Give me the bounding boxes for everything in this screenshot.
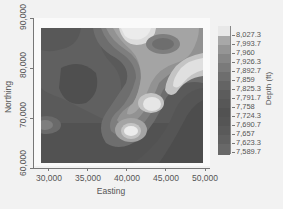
x-tick: [87, 168, 88, 171]
colorbar-label: 7,690.7: [232, 121, 261, 129]
x-tick-label: 30,000: [36, 173, 62, 183]
colorbar-label: 7,623.3: [232, 139, 261, 147]
y-axis-title: Northing: [3, 81, 13, 113]
colorbar-band: [218, 26, 230, 36]
colorbar-label: 7,892.7: [232, 67, 261, 75]
x-axis-line: [33, 168, 210, 169]
colorbar-label: 7,926.3: [232, 58, 261, 66]
colorbar-band: [218, 117, 230, 126]
colorbar-label: 8,027.3: [232, 31, 261, 39]
y-tick-label: 60,000: [18, 150, 28, 176]
colorbar-band: [218, 126, 230, 135]
y-tick-label: 80,000: [18, 52, 28, 78]
colorbar-label: 7,589.7: [232, 148, 261, 156]
colorbar-band: [218, 45, 230, 54]
y-tick: [30, 168, 33, 169]
y-tick: [30, 118, 33, 119]
colorbar-label: 7,960: [232, 49, 255, 57]
contour-plot-area: [41, 28, 203, 163]
colorbar-label: 7,724.3: [232, 112, 261, 120]
y-tick: [30, 68, 33, 69]
colorbar-axis: [230, 26, 231, 154]
y-tick-label: 90,000: [18, 4, 28, 30]
x-tick: [205, 168, 206, 171]
x-tick: [126, 168, 127, 171]
y-axis-line: [33, 18, 34, 168]
colorbar-band: [218, 135, 230, 144]
colorbar-title: Depth (ft): [264, 72, 273, 105]
colorbar-band: [218, 99, 230, 108]
colorbar: [218, 26, 230, 154]
colorbar-band: [218, 54, 230, 63]
colorbar-label: 7,993.7: [232, 40, 261, 48]
colorbar-label: 7,791.7: [232, 94, 261, 102]
x-tick-label: 45,000: [153, 173, 179, 183]
colorbar-band: [218, 36, 230, 45]
colorbar-label: 7,859: [232, 76, 255, 84]
x-axis-title: Easting: [97, 186, 125, 196]
colorbar-band: [218, 63, 230, 72]
x-tick: [48, 168, 49, 171]
colorbar-band: [218, 81, 230, 90]
y-tick-label: 70,000: [18, 102, 28, 128]
x-tick: [165, 168, 166, 171]
x-tick-label: 40,000: [114, 173, 140, 183]
colorbar-band: [218, 144, 230, 155]
colorbar-band: [218, 72, 230, 81]
contour-map: [41, 28, 203, 163]
y-tick: [30, 18, 33, 19]
colorbar-label: 7,657: [232, 130, 255, 138]
colorbar-label: 7,825.3: [232, 85, 261, 93]
x-tick-label: 50,000: [192, 173, 218, 183]
colorbar-label: 7,758: [232, 103, 255, 111]
x-tick-label: 35,000: [75, 173, 101, 183]
colorbar-band: [218, 90, 230, 99]
colorbar-band: [218, 108, 230, 117]
